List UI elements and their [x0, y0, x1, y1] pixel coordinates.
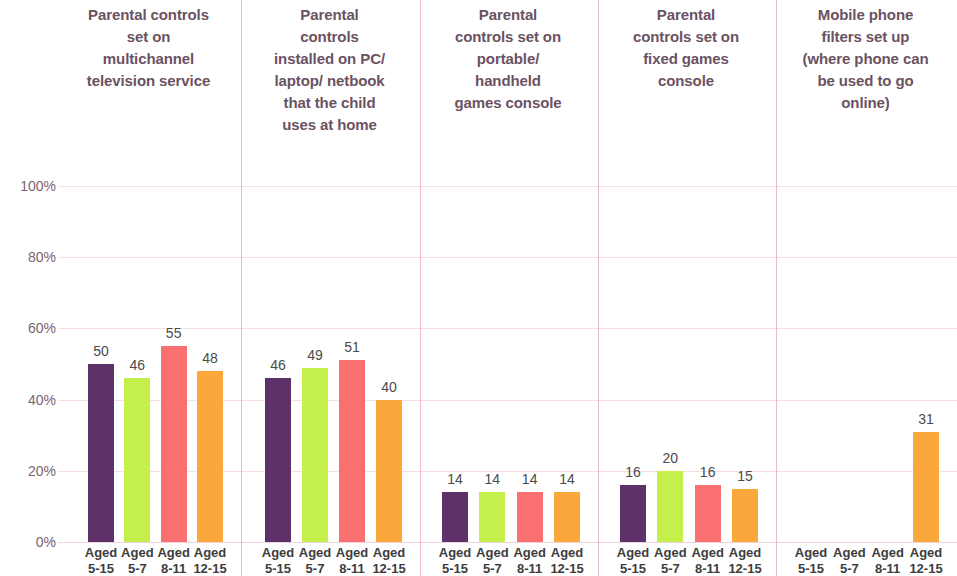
bar [302, 368, 328, 542]
bar [339, 360, 365, 542]
panel-separator-1 [241, 0, 242, 576]
y-axis-label: 40% [2, 392, 56, 408]
bar [732, 489, 758, 542]
gridline-100 [58, 186, 957, 187]
bar-chart: 100%80%60%40%20%0% Parental controlsset … [0, 0, 957, 576]
group-header-line: uses at home [282, 116, 377, 133]
bar-value-label: 31 [906, 411, 946, 427]
bar [124, 378, 150, 542]
bar [442, 492, 468, 542]
y-axis-label: 0% [2, 534, 56, 550]
group-header-line: controls set on [455, 28, 561, 45]
bar [620, 485, 646, 542]
group-header-line: handheld [475, 72, 541, 89]
group-header-line: set on [127, 28, 171, 45]
tick-label-line2: 12-15 [903, 561, 949, 576]
group-header-line: television service [87, 72, 210, 89]
group-header-line: Parental [479, 6, 537, 23]
gridline-80 [58, 257, 957, 258]
x-tick-label: Aged12-15 [722, 545, 768, 576]
bar-value-label: 50 [81, 343, 121, 359]
x-tick-label: Aged12-15 [187, 545, 233, 576]
bar-value-label: 14 [547, 471, 587, 487]
bar [161, 346, 187, 542]
group-header-line: Parental [300, 6, 358, 23]
group-header-line: laptop/ netbook [274, 72, 384, 89]
bar-value-label: 14 [510, 471, 550, 487]
x-tick-label: Aged12-15 [903, 545, 949, 576]
tick-label-line2: 12-15 [722, 561, 768, 576]
tick-label-line1: Aged [366, 545, 412, 561]
gridline-40 [58, 400, 957, 401]
group-header-line: Parental controls [88, 6, 209, 23]
x-tick-label: Aged12-15 [544, 545, 590, 576]
group-header-line: installed on PC/ [274, 50, 385, 67]
tick-label-line1: Aged [722, 545, 768, 561]
group-header-line: that the child [284, 94, 376, 111]
gridline-0 [58, 542, 957, 543]
group-header-1: Parental controlsset onmultichanneltelev… [60, 4, 237, 92]
group-header-line: controls [300, 28, 358, 45]
bar-value-label: 15 [725, 468, 765, 484]
bar-value-label: 55 [154, 325, 194, 341]
panel-separator-3 [598, 0, 599, 576]
bar [88, 364, 114, 542]
bar-value-label: 14 [435, 471, 475, 487]
bar [376, 400, 402, 542]
group-header-line: controls set on [633, 28, 739, 45]
group-header-line: console [658, 72, 714, 89]
bar-value-label: 48 [190, 350, 230, 366]
bar [913, 432, 939, 542]
panel-separator-4 [776, 0, 777, 576]
tick-label-line2: 12-15 [366, 561, 412, 576]
bar-value-label: 16 [613, 464, 653, 480]
group-header-5: Mobile phonefilters set up(where phone c… [778, 4, 953, 114]
bar [265, 378, 291, 542]
group-header-line: portable/ [477, 50, 539, 67]
y-axis: 100%80%60%40%20%0% [0, 0, 56, 576]
bar [554, 492, 580, 542]
bar-value-label: 16 [688, 464, 728, 480]
tick-label-line2: 12-15 [187, 561, 233, 576]
bar [479, 492, 505, 542]
group-header-line: Mobile phone [818, 6, 913, 23]
bar [695, 485, 721, 542]
y-axis-label: 20% [2, 463, 56, 479]
group-header-3: Parentalcontrols set onportable/handheld… [422, 4, 594, 114]
bar-value-label: 51 [332, 339, 372, 355]
bar [197, 371, 223, 542]
group-header-line: (where phone can [803, 50, 929, 67]
bar [657, 471, 683, 542]
group-header-line: Parental [657, 6, 715, 23]
tick-label-line2: 12-15 [544, 561, 590, 576]
group-header-line: games console [454, 94, 561, 111]
group-header-line: online) [841, 94, 889, 111]
bar-value-label: 20 [650, 450, 690, 466]
tick-label-line1: Aged [187, 545, 233, 561]
tick-label-line1: Aged [544, 545, 590, 561]
group-header-4: Parentalcontrols set onfixed gamesconsol… [600, 4, 772, 92]
x-tick-label: Aged12-15 [366, 545, 412, 576]
y-axis-label: 60% [2, 320, 56, 336]
bar-value-label: 14 [472, 471, 512, 487]
bar-value-label: 46 [258, 357, 298, 373]
y-axis-label: 100% [2, 178, 56, 194]
panel-separator-2 [420, 0, 421, 576]
group-header-line: fixed games [643, 50, 729, 67]
group-header-2: Parentalcontrolsinstalled on PC/laptop/ … [243, 4, 416, 136]
tick-label-line1: Aged [903, 545, 949, 561]
group-header-line: be used to go [817, 72, 913, 89]
group-header-line: filters set up [822, 28, 910, 45]
bar-value-label: 46 [117, 357, 157, 373]
y-axis-label: 80% [2, 249, 56, 265]
bar-value-label: 49 [295, 347, 335, 363]
group-header-line: multichannel [103, 50, 194, 67]
bar-value-label: 40 [369, 379, 409, 395]
bar [517, 492, 543, 542]
